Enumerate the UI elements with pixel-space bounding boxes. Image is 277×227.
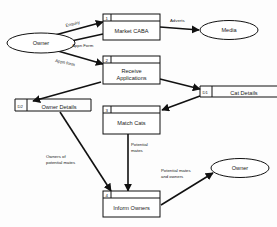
process-2-label-line1: Receive xyxy=(121,68,141,74)
process-inform-owners[interactable]: 4 Inform Owners xyxy=(103,191,160,217)
flow-line-to-owner-details xyxy=(33,82,101,101)
process-market-caba[interactable]: 1 Market CABA xyxy=(103,14,160,40)
flow-label-adverts: Adverts xyxy=(170,18,185,23)
flow-label-potential-mates-and-owners-line1: Potential mates xyxy=(161,168,191,173)
flow-label-owners-of-potential-mates-line2: potential mates xyxy=(46,160,75,165)
flow-label-appn-form-in: Appn form xyxy=(55,58,76,67)
datastore-d1-label: Cat Details xyxy=(230,90,258,96)
process-2-label-line2: Applications xyxy=(116,75,146,81)
flow-label-enquiry: Enquiry xyxy=(65,19,81,28)
flow-label-potential-mates-and-owners-line2: and owners xyxy=(161,174,183,179)
entity-owner-left[interactable]: Owner xyxy=(7,33,75,53)
flow-label-potential-mates-line1: Potential xyxy=(131,142,148,147)
datastore-cat-details[interactable]: D1 Cat Details xyxy=(200,86,277,97)
datastore-d2-id: D2 xyxy=(18,104,24,109)
datastore-owner-details[interactable]: D2 Owner Details xyxy=(15,99,91,111)
entity-media-label: Media xyxy=(221,27,237,33)
flow-label-owners-of-potential-mates-line1: Owners of xyxy=(46,154,66,159)
flow-line-to-cat-details xyxy=(160,79,200,89)
flow-label-potential-mates-line2: mates xyxy=(131,148,143,153)
process-3-label: Match Cats xyxy=(117,120,145,126)
process-receive-applications[interactable]: 2 Receive Applications xyxy=(103,56,160,84)
dfd-diagram: 1 Market CABA 2 Receive Applications 3 M… xyxy=(0,0,277,227)
datastore-d1-id: D1 xyxy=(203,90,209,95)
entity-media[interactable]: Media xyxy=(200,21,258,40)
flow-line-cat-details-to-match xyxy=(162,96,200,110)
process-1-label: Market CABA xyxy=(115,28,149,34)
flow-line-adverts xyxy=(160,27,199,30)
flow-label-appn-form-out: Appn Form xyxy=(72,43,94,48)
diagram-canvas: 1 Market CABA 2 Receive Applications 3 M… xyxy=(0,0,277,227)
entity-owner-right[interactable]: Owner xyxy=(211,159,269,178)
process-match-cats[interactable]: 3 Match Cats xyxy=(103,106,160,134)
entity-owner-left-label: Owner xyxy=(33,40,50,46)
datastore-d2-label: Owner Details xyxy=(41,104,76,110)
process-4-label: Inform Owners xyxy=(113,205,150,211)
entity-owner-right-label: Owner xyxy=(232,165,249,171)
